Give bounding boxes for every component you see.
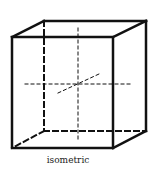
center-axes [25,28,131,140]
diagram-caption: isometric [0,155,136,165]
isometric-cube-diagram [0,0,156,173]
